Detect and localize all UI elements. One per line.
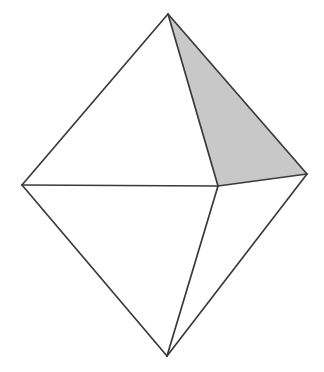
edge-left-center: [22, 185, 218, 186]
octahedron-figure: [0, 0, 324, 372]
octahedron-drawing: [0, 0, 324, 372]
